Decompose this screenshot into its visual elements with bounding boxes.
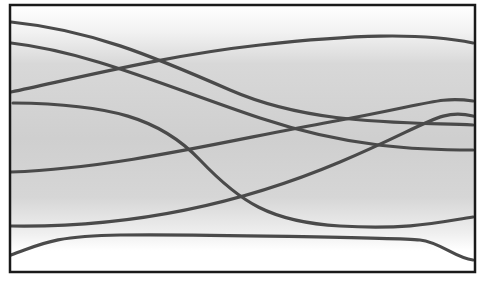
curves-canvas (0, 0, 480, 289)
crossing-curves-figure (0, 0, 480, 289)
